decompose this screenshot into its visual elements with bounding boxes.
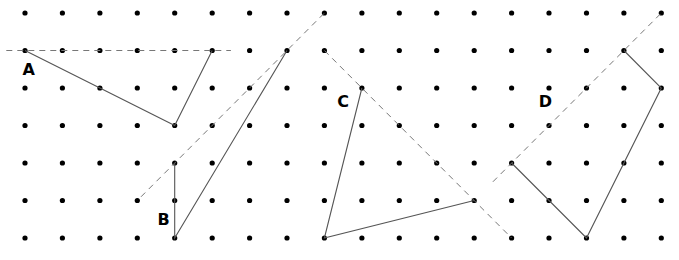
grid-dots (22, 10, 664, 240)
grid-dot (97, 10, 102, 15)
grid-dot (284, 198, 289, 203)
label-b: B (157, 210, 169, 229)
grid-dot (546, 10, 551, 15)
grid-dot (322, 123, 327, 128)
grid-dot (434, 123, 439, 128)
mirror-line-c (324, 51, 511, 239)
grid-dot (22, 198, 27, 203)
grid-dot (434, 198, 439, 203)
grid-dot (22, 235, 27, 240)
grid-dot (247, 10, 252, 15)
grid-dot (135, 160, 140, 165)
grid-dot (135, 123, 140, 128)
shape-lines (25, 51, 661, 239)
grid-dot (135, 85, 140, 90)
label-c: C (337, 92, 349, 111)
grid-dot (22, 10, 27, 15)
grid-dot (621, 198, 626, 203)
mirror-lines (6, 13, 661, 238)
grid-dot (172, 85, 177, 90)
grid-dot (659, 48, 664, 53)
mirror-line-d (493, 13, 661, 182)
grid-dot (621, 85, 626, 90)
grid-dot (210, 85, 215, 90)
grid-dot (584, 198, 589, 203)
grid-dot (397, 235, 402, 240)
grid-dot (210, 160, 215, 165)
grid-dot (247, 160, 252, 165)
diagram-canvas: A B C D (0, 0, 679, 260)
grid-dot (359, 123, 364, 128)
grid-dot (97, 160, 102, 165)
grid-dot (60, 10, 65, 15)
grid-dot (247, 48, 252, 53)
grid-dot (60, 235, 65, 240)
grid-dot (509, 48, 514, 53)
grid-dot (284, 160, 289, 165)
grid-dot (322, 160, 327, 165)
grid-dot (284, 123, 289, 128)
grid-dot (659, 235, 664, 240)
grid-dot (397, 10, 402, 15)
grid-dot (359, 235, 364, 240)
grid-dot (584, 48, 589, 53)
grid-dot (659, 198, 664, 203)
grid-dot (247, 198, 252, 203)
label-d: D (539, 92, 552, 111)
shape-a (25, 51, 212, 126)
grid-dot (397, 198, 402, 203)
grid-dot (621, 10, 626, 15)
grid-dot (359, 160, 364, 165)
grid-dot (472, 123, 477, 128)
grid-dot (284, 10, 289, 15)
grid-dot (472, 48, 477, 53)
grid-dot (509, 10, 514, 15)
grid-dot (359, 10, 364, 15)
grid-dot (434, 10, 439, 15)
shape-b (175, 51, 287, 239)
grid-dot (322, 85, 327, 90)
grid-dot (472, 10, 477, 15)
grid-dot (210, 198, 215, 203)
grid-dot (60, 85, 65, 90)
grid-dot (135, 10, 140, 15)
grid-dot (97, 235, 102, 240)
grid-dot (434, 48, 439, 53)
grid-dot (584, 123, 589, 128)
grid-dot (247, 235, 252, 240)
mirror-line-b (141, 13, 324, 197)
grid-dot (60, 123, 65, 128)
grid-dot (284, 85, 289, 90)
grid-dot (472, 235, 477, 240)
grid-dot (434, 235, 439, 240)
grid-dot (135, 198, 140, 203)
grid-dot (659, 123, 664, 128)
grid-dot (472, 160, 477, 165)
grid-dot (22, 160, 27, 165)
grid-dot (247, 123, 252, 128)
grid-dot (210, 10, 215, 15)
grid-dot (509, 198, 514, 203)
grid-dot (22, 85, 27, 90)
grid-dot (60, 160, 65, 165)
grid-dot (584, 10, 589, 15)
grid-dot (172, 10, 177, 15)
dot-grid-diagram: A B C D (0, 0, 679, 260)
grid-dot (397, 85, 402, 90)
grid-dot (397, 48, 402, 53)
grid-dot (97, 198, 102, 203)
shape-d (512, 51, 662, 239)
grid-dot (22, 123, 27, 128)
grid-dot (359, 198, 364, 203)
grid-dot (546, 48, 551, 53)
grid-dot (472, 85, 477, 90)
grid-dot (322, 198, 327, 203)
grid-dot (210, 235, 215, 240)
label-a: A (23, 60, 36, 79)
grid-dot (397, 160, 402, 165)
grid-dot (509, 85, 514, 90)
grid-dot (97, 123, 102, 128)
grid-dot (434, 85, 439, 90)
grid-dot (60, 198, 65, 203)
grid-dot (135, 235, 140, 240)
